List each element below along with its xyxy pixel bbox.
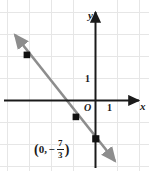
y-tick-label-1: 1 (85, 74, 90, 84)
graph-figure: y x O 1 1 ( 0 , − 7 3 ) (0, 0, 149, 171)
annotation-minus-sign: − (48, 144, 54, 155)
x-tick-label-1: 1 (107, 103, 112, 113)
fraction-numerator: 7 (57, 139, 64, 149)
origin-label: O (84, 103, 91, 113)
grid-lines (0, 0, 149, 171)
y-intercept-annotation: ( 0 , − 7 3 ) (34, 139, 69, 160)
annotation-close-paren: ) (65, 143, 70, 157)
y-axis-label: y (88, 10, 93, 21)
x-axis-label: x (140, 101, 146, 112)
coordinate-plane-svg (0, 0, 149, 171)
annotation-comma: , (44, 144, 47, 155)
annotation-fraction: 7 3 (57, 139, 64, 160)
fraction-denominator: 3 (57, 150, 64, 160)
